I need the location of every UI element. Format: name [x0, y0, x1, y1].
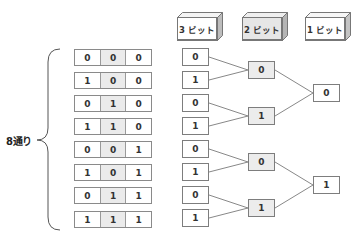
bit-cell: 0 — [101, 165, 127, 180]
bit-cell: 0 — [75, 188, 101, 203]
combination-count-label: 8通り — [6, 133, 32, 148]
combination-row: 0 0 1 — [74, 141, 152, 158]
bit-cell: 0 — [101, 50, 127, 65]
bit-cell: 1 — [101, 212, 127, 227]
bit-cell: 1 — [75, 119, 101, 134]
bit-cell: 0 — [75, 96, 101, 111]
combination-row: 0 1 0 — [74, 95, 152, 112]
bit-cell: 0 — [75, 50, 101, 65]
tree-node-bit3: 0 — [182, 48, 209, 66]
bit-cell: 1 — [126, 165, 151, 180]
bit-cell: 1 — [101, 96, 127, 111]
bit-cell: 1 — [101, 119, 127, 134]
tree-node-bit3: 0 — [182, 140, 209, 158]
bit-cell: 1 — [75, 165, 101, 180]
bit-cell: 1 — [75, 212, 101, 227]
combination-row: 0 0 0 — [74, 49, 152, 66]
combination-row: 1 0 1 — [74, 164, 152, 181]
bit-cell: 1 — [126, 212, 151, 227]
bit-cell: 0 — [126, 96, 151, 111]
tree-node-bit1: 0 — [313, 84, 340, 102]
tree-node-bit3: 1 — [182, 71, 209, 89]
bit-cell: 0 — [126, 50, 151, 65]
bit-cell: 0 — [126, 119, 151, 134]
tree-node-bit2: 0 — [248, 61, 275, 79]
tree-node-bit3: 1 — [182, 117, 209, 135]
bit-cell: 1 — [126, 142, 151, 157]
combination-row: 0 1 1 — [74, 187, 152, 204]
tree-node-bit2: 0 — [248, 153, 275, 171]
curly-brace-icon — [37, 49, 60, 230]
combination-row: 1 1 0 — [74, 118, 152, 135]
tree-node-bit2: 1 — [248, 107, 275, 125]
combination-row: 1 0 0 — [74, 72, 152, 89]
bit-cell: 1 — [75, 73, 101, 88]
tree-node-bit3: 0 — [182, 94, 209, 112]
bit-cell: 0 — [101, 142, 127, 157]
tree-node-bit3: 0 — [182, 186, 209, 204]
tree-node-bit3: 1 — [182, 209, 209, 227]
connector-lines — [0, 0, 361, 236]
bit-cell: 0 — [126, 73, 151, 88]
tree-node-bit3: 1 — [182, 163, 209, 181]
bit-cell: 0 — [101, 73, 127, 88]
tree-node-bit2: 1 — [248, 199, 275, 217]
tree-node-bit1: 1 — [313, 176, 340, 194]
bit-cell: 1 — [101, 188, 127, 203]
bit-cell: 1 — [126, 188, 151, 203]
bit-cell: 0 — [75, 142, 101, 157]
combination-row: 1 1 1 — [74, 211, 152, 228]
